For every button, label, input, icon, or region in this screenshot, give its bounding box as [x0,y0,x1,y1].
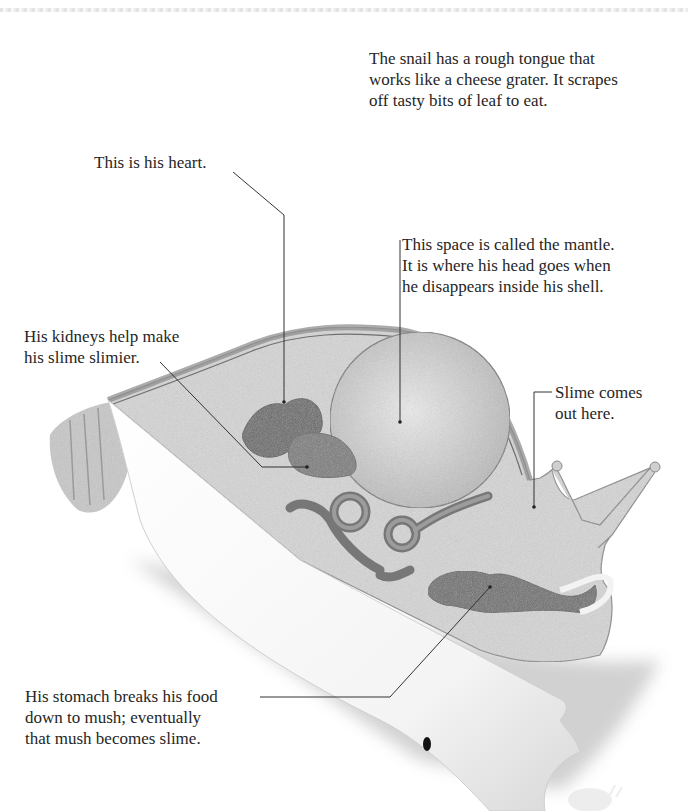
slime-callout: Slime comes out here. [555,382,642,424]
book-page: The snail has a rough tongue that works … [0,0,688,811]
mantle-callout: This space is called the mantle. It is w… [402,234,688,297]
mantle-cavity [330,332,510,508]
shell-hole [423,737,431,751]
intro-text: The snail has a rough tongue that works … [369,48,688,111]
stomach-callout: His stomach breaks his food down to mush… [25,686,218,749]
watermark-snail-icon [568,785,622,811]
kidneys-callout: His kidneys help make his slime slimier. [24,326,179,368]
heart-callout: This is his heart. [94,152,206,173]
